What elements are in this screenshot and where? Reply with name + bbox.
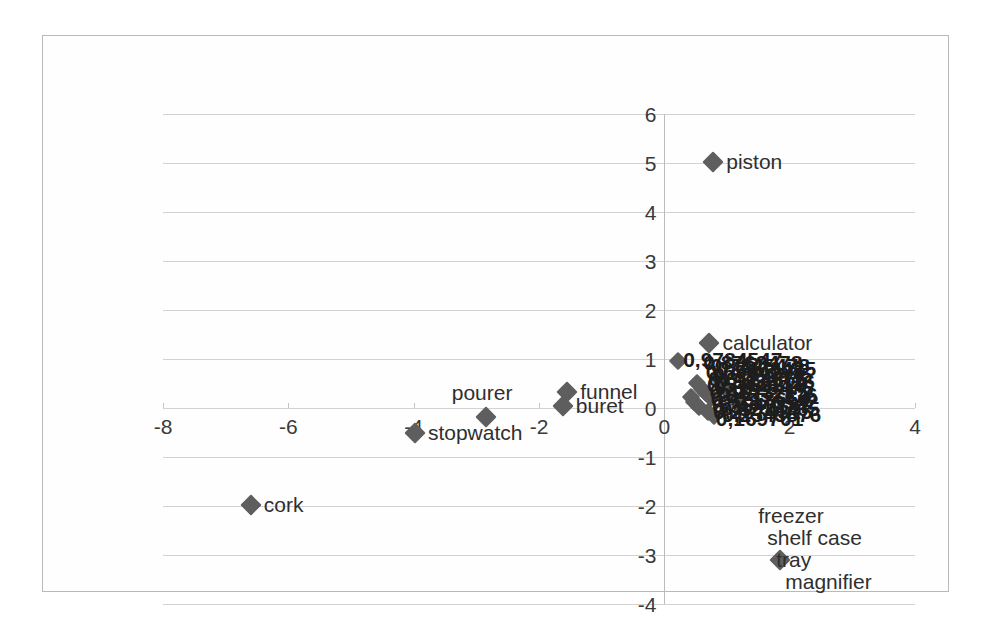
gridline xyxy=(163,163,915,164)
y-axis-line xyxy=(664,114,665,604)
gridline xyxy=(163,212,915,213)
data-point-label: calculator xyxy=(722,332,812,354)
x-tick-label: -6 xyxy=(258,416,318,437)
gridline xyxy=(163,114,915,115)
y-tick-label: 2 xyxy=(645,300,657,321)
gridline xyxy=(163,604,915,605)
data-marker xyxy=(240,494,261,515)
y-tick-label: 3 xyxy=(645,251,657,272)
x-tick-label: 0 xyxy=(634,416,694,437)
data-point-label: buret xyxy=(576,395,624,417)
data-point-label: piston xyxy=(726,151,782,173)
data-point-label: magnifier xyxy=(785,571,871,593)
x-tick-label: -8 xyxy=(133,416,193,437)
y-tick-label: -1 xyxy=(638,447,657,468)
x-tick-mark xyxy=(288,403,289,408)
y-tick-label: -4 xyxy=(638,594,657,615)
x-tick-mark xyxy=(163,403,164,408)
y-tick-label: 4 xyxy=(645,202,657,223)
x-tick-label: 4 xyxy=(885,416,945,437)
data-point-label: cork xyxy=(264,494,304,516)
gridline xyxy=(163,261,915,262)
cluster-data-label: 0,169701 xyxy=(716,408,804,430)
y-tick-label: 1 xyxy=(645,349,657,370)
data-point-label: freezer xyxy=(758,505,823,527)
gridline xyxy=(163,310,915,311)
chart-frame: 6543210-1-2-3-4 -8-6-4-2024 0,97845470,8… xyxy=(42,35,949,592)
data-point-label: stopwatch xyxy=(428,423,523,445)
y-tick-label: -3 xyxy=(638,545,657,566)
data-point-label: pourer xyxy=(452,382,513,404)
x-tick-mark xyxy=(539,403,540,408)
y-tick-label: 6 xyxy=(645,104,657,125)
x-tick-mark xyxy=(414,403,415,408)
plot-area: 6543210-1-2-3-4 -8-6-4-2024 0,97845470,8… xyxy=(163,114,915,604)
data-marker xyxy=(703,151,724,172)
gridline xyxy=(163,457,915,458)
data-point-label: tray xyxy=(776,549,811,571)
y-tick-label: -2 xyxy=(638,496,657,517)
y-tick-label: 5 xyxy=(645,153,657,174)
x-tick-mark xyxy=(915,403,916,408)
data-point-label: shelf case xyxy=(767,527,862,549)
